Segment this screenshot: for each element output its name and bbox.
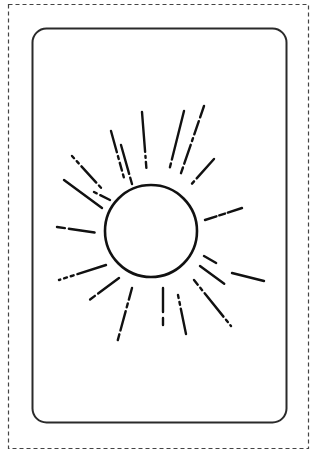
sun-disc: [105, 185, 197, 277]
sun-card-illustration: [0, 0, 312, 459]
